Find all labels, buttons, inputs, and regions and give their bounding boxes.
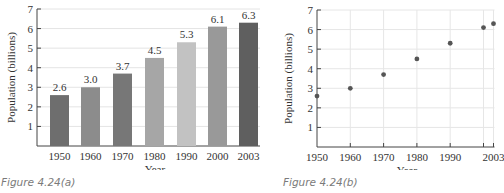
data-point-1970	[381, 72, 386, 77]
figure-caption-b: Figure 4.24(b)	[283, 176, 358, 188]
y-tick-label: 7	[308, 4, 314, 16]
x-tick-label: 1990	[439, 151, 462, 163]
x-tick-label: 2003	[482, 151, 504, 163]
y-axis-title: Population (billions)	[282, 33, 295, 124]
y-tick-label: 1	[308, 121, 314, 133]
scatter-chart-population: 1234567195019601970198019902003YearPopul…	[0, 0, 504, 170]
y-tick-label: 4	[308, 63, 314, 75]
y-tick-label: 2	[308, 102, 314, 114]
x-tick-label: 1960	[339, 151, 362, 163]
data-point-2003	[491, 21, 496, 26]
y-tick-label: 5	[308, 43, 314, 55]
y-tick-label: 3	[308, 82, 314, 94]
x-tick-label: 1950	[306, 151, 329, 163]
x-tick-label: 1980	[406, 151, 429, 163]
x-axis-title: Year	[397, 164, 418, 170]
data-point-2000	[481, 25, 486, 30]
y-tick-label: 6	[308, 24, 314, 36]
data-point-1950	[315, 94, 320, 99]
data-point-1960	[348, 86, 353, 91]
data-point-1980	[415, 57, 420, 62]
x-tick-label: 1970	[373, 151, 396, 163]
figure-caption-a: Figure 4.24(a)	[1, 176, 75, 188]
data-point-1990	[448, 41, 453, 46]
